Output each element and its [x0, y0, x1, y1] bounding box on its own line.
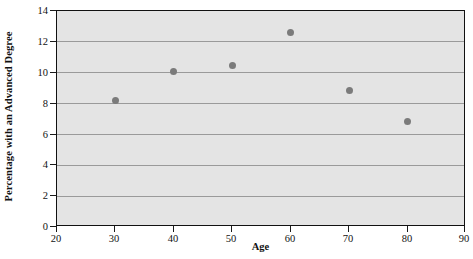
x-axis-title: Age	[56, 241, 465, 252]
scatter-chart: Percentage with an Advanced Degree 0 2 4…	[0, 0, 473, 259]
x-axis-ticks: 20 30 40 50 60 70 80 90	[0, 0, 473, 259]
